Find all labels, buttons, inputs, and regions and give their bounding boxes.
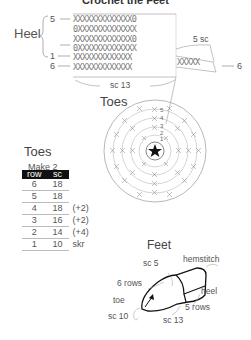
toes-diagram-label: Toes: [100, 94, 127, 109]
sc-cell: 10: [47, 239, 69, 251]
table-row: 3 16 (+2): [22, 215, 95, 227]
heel-stitch-row: XXXXXXXXXXXXX: [73, 62, 132, 72]
table-row: 4 18 (+2): [22, 203, 95, 215]
heel-extension-row-number: 6: [237, 61, 242, 71]
row-cell: 2: [22, 227, 47, 239]
row-cell: 1: [22, 239, 47, 251]
table-row: 6 18: [22, 179, 95, 191]
feet-label-toe: toe: [113, 295, 125, 305]
sc-cell: 18: [47, 191, 69, 203]
row-cell: 4: [22, 203, 47, 215]
feet-label-5-rows: 5 rows: [185, 302, 210, 312]
feet-title: Feet: [147, 238, 171, 252]
heel-extension-row: XXXXX: [177, 57, 200, 67]
heel-row-marker-5: 5: [50, 14, 55, 24]
svg-text:1: 1: [160, 136, 164, 142]
feet-label-sc10: sc 10: [108, 311, 128, 321]
star-icon: [148, 144, 162, 157]
column-header-sc: sc: [47, 170, 69, 179]
note-cell: [69, 179, 95, 191]
heel-row-marker-1: 1: [50, 51, 55, 61]
table-row: 1 10 skr: [22, 239, 95, 251]
note-cell: (+2): [69, 203, 95, 215]
heel-stitch-row: XXXXXXXXXXXXX: [73, 52, 132, 62]
svg-text:3: 3: [160, 123, 164, 129]
note-cell: [69, 191, 95, 203]
table-row: 5 18: [22, 191, 95, 203]
note-cell: (+4): [69, 227, 95, 239]
sc-cell: 16: [47, 215, 69, 227]
heel-bottom-label: sc 13: [110, 80, 130, 90]
heel-row-marker-6: 6: [50, 61, 55, 71]
row-cell: 3: [22, 215, 47, 227]
row-cell: 5: [22, 191, 47, 203]
column-header-row: row: [22, 170, 47, 179]
sc-cell: 18: [47, 179, 69, 191]
feet-label-6-rows: 6 rows: [117, 278, 142, 288]
feet-label-sc5: sc 5: [143, 258, 159, 268]
feet-label-heel: heel: [201, 286, 217, 296]
feet-label-sc13: sc 13: [163, 315, 183, 325]
note-cell: skr: [69, 239, 95, 251]
svg-text:4: 4: [160, 115, 164, 121]
heel-extension-label: 5 sc: [193, 34, 209, 44]
feet-label-hemstitch: hemstitch: [183, 254, 219, 264]
table-row: 2 14 (+4): [22, 227, 95, 239]
row-cell: 6: [22, 179, 47, 191]
sc-cell: 18: [47, 203, 69, 215]
toes-table: row sc 6 18 5 18 4 18 (+2) 3 16 (+2) 2 1…: [22, 170, 95, 251]
toes-table-title: Toes: [24, 144, 51, 159]
heel-stitch-row: 0XXXXXXXXXXXXX: [73, 24, 136, 34]
sc-cell: 14: [47, 227, 69, 239]
note-cell: (+2): [69, 215, 95, 227]
toes-circle-diagram: 5 4 3 2 1: [104, 100, 206, 202]
heel-stitch-row: XXXXXXXXXXXXX0: [73, 14, 136, 24]
